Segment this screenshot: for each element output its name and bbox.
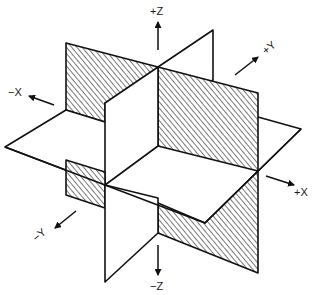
neg-x-label: −X (8, 86, 22, 98)
pos-x-arrow (266, 176, 294, 185)
pos-y-arrow (235, 57, 258, 75)
pos-x-label: +X (294, 186, 308, 198)
pos-z-label: +Z (150, 5, 163, 17)
coordinate-planes-diagram: +Z −Z +Y −Y +X −X (0, 0, 318, 295)
neg-z-label: −Z (150, 280, 163, 292)
neg-x-arrow (29, 96, 54, 105)
pos-y-label: +Y (260, 38, 279, 56)
neg-y-label: −Y (30, 225, 49, 243)
yz-plane-lower-front (105, 185, 158, 282)
neg-y-arrow (55, 211, 76, 228)
